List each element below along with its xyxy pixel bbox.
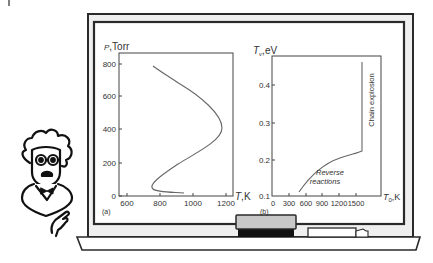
chart-a-ytick-0: 0: [112, 192, 117, 201]
chart-b-y-label: Tv,eV: [253, 45, 277, 57]
face: [32, 147, 60, 186]
reverse-annotation-line1: Reverse: [316, 168, 344, 177]
reverse-annotation-line2: reactions: [310, 177, 341, 186]
chart-a-xtick-1200: 1200: [217, 199, 235, 208]
chart-b-ytick-0.1: 0.1: [259, 192, 271, 201]
chart-b-ytick-0.2: 0.2: [259, 156, 271, 165]
chain-explosion-annotation: Chain explosion: [367, 73, 376, 126]
chart-b-tag: (b): [260, 208, 269, 216]
blackboard-illustration: 0 200 400 600 800 600 800 1000 1200 (a) …: [0, 0, 433, 263]
chart-b-xtick-1500: 1500: [348, 199, 365, 208]
chart-a-xtick-600: 600: [120, 199, 134, 208]
chart-a-ytick-400: 400: [103, 125, 117, 134]
eraser-base[interactable]: [238, 229, 294, 237]
chalk-ledge: [77, 237, 420, 250]
chart-a-y-label: P,Torr: [104, 41, 130, 52]
pointing-hand-icon: [51, 212, 68, 236]
mustache: [42, 172, 52, 176]
right-eye: [51, 158, 55, 162]
chart-a-x-label: T,K: [235, 191, 251, 202]
chart-b-xtick-300: 300: [283, 199, 296, 208]
chart-b-xtick-900: 900: [316, 199, 329, 208]
chart-a-ytick-600: 600: [103, 92, 117, 101]
chart-a-tag: (a): [102, 208, 111, 216]
chart-b-x-label: T0,K: [383, 192, 400, 203]
chart-b-xtick-0: 0: [271, 199, 275, 208]
left-eye: [39, 158, 43, 162]
chart-a-ytick-200: 200: [103, 159, 117, 168]
chart-a-ytick-800: 800: [103, 60, 117, 69]
professor-avatar: [22, 130, 72, 236]
chart-b-ytick-0.3: 0.3: [259, 119, 271, 128]
chalk-stick[interactable]: [308, 228, 356, 237]
chart-b-xtick-1200: 1200: [331, 199, 348, 208]
chart-b-ytick-0.4: 0.4: [259, 81, 271, 90]
chart-a-xtick-1000: 1000: [184, 199, 202, 208]
chart-b-xtick-600: 600: [300, 199, 313, 208]
eraser[interactable]: [236, 215, 296, 229]
chart-a-xtick-800: 800: [153, 199, 167, 208]
